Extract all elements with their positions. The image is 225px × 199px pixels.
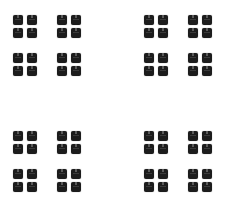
block-glyph-icon [57,66,67,76]
block-glyph-icon [144,28,154,38]
block-glyph-icon [27,131,37,141]
block-glyph-icon [57,15,67,25]
block-glyph-icon [71,131,81,141]
block-glyph-icon [202,15,212,25]
block-glyph-icon [57,144,67,154]
block-glyph-icon [202,53,212,63]
block-glyph-icon [144,53,154,63]
block-glyph-icon [158,144,168,154]
block-glyph-icon [188,28,198,38]
block-glyph-icon [158,66,168,76]
block-glyph-icon [13,182,23,192]
block-glyph-icon [13,15,23,25]
block-glyph-icon [188,169,198,179]
pattern-canvas [0,0,225,199]
block-glyph-icon [202,169,212,179]
block-glyph-icon [188,144,198,154]
block-glyph-icon [144,144,154,154]
block-glyph-icon [13,28,23,38]
block-glyph-icon [71,169,81,179]
block-glyph-icon [144,169,154,179]
block-glyph-icon [188,53,198,63]
block-glyph-icon [188,131,198,141]
block-glyph-icon [57,169,67,179]
block-glyph-icon [27,144,37,154]
block-glyph-icon [158,28,168,38]
block-glyph-icon [71,15,81,25]
block-glyph-icon [144,131,154,141]
block-glyph-icon [71,66,81,76]
block-glyph-icon [188,66,198,76]
block-glyph-icon [202,66,212,76]
block-glyph-icon [13,131,23,141]
block-glyph-icon [27,15,37,25]
block-glyph-icon [57,28,67,38]
block-glyph-icon [71,182,81,192]
block-glyph-icon [57,182,67,192]
block-glyph-icon [13,169,23,179]
block-glyph-icon [158,131,168,141]
block-glyph-icon [158,53,168,63]
block-glyph-icon [202,182,212,192]
block-glyph-icon [202,28,212,38]
block-glyph-icon [27,28,37,38]
block-glyph-icon [202,144,212,154]
block-glyph-icon [158,15,168,25]
block-glyph-icon [57,131,67,141]
block-glyph-icon [188,182,198,192]
block-glyph-icon [27,182,37,192]
block-glyph-icon [57,53,67,63]
block-glyph-icon [13,66,23,76]
block-glyph-icon [202,131,212,141]
block-glyph-icon [158,169,168,179]
block-glyph-icon [71,144,81,154]
block-glyph-icon [27,169,37,179]
block-glyph-icon [27,53,37,63]
block-glyph-icon [13,144,23,154]
block-glyph-icon [27,66,37,76]
block-glyph-icon [71,53,81,63]
block-glyph-icon [158,182,168,192]
block-glyph-icon [144,66,154,76]
block-glyph-icon [13,53,23,63]
block-glyph-icon [188,15,198,25]
block-glyph-icon [144,182,154,192]
block-glyph-icon [144,15,154,25]
block-glyph-icon [71,28,81,38]
